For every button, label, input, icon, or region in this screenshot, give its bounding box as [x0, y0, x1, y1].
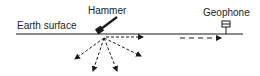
earth-surface-label: Earth surface [17, 21, 76, 31]
hammer-label: Hammer [88, 6, 126, 16]
seismic-diagram: Earth surface Hammer Geophone [0, 0, 260, 76]
seismic-wave-arrows [75, 37, 143, 71]
hammer-icon [95, 17, 117, 34]
geophone-icon [222, 21, 230, 34]
geophone-label: Geophone [203, 8, 250, 18]
